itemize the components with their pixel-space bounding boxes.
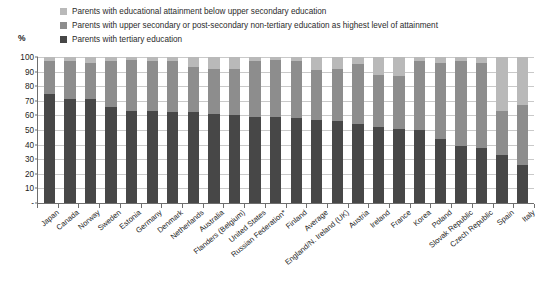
stacked-bar-chart: Parents with educational attainment belo… xyxy=(0,0,543,290)
stacked-bar[interactable] xyxy=(249,57,260,203)
x-axis-label: Spain xyxy=(495,208,516,227)
legend-label-tertiary: Parents with tertiary education xyxy=(72,34,182,45)
bar-segment-upper-secondary xyxy=(44,61,55,93)
bar-segment-upper-secondary xyxy=(208,69,219,114)
bar-segment-upper-secondary xyxy=(249,61,260,116)
bar-segment-upper-secondary xyxy=(311,70,322,120)
bar-segment-upper-secondary xyxy=(517,105,528,165)
stacked-bar[interactable] xyxy=(435,57,446,203)
bar-segment-tertiary xyxy=(476,148,487,203)
bar-segment-below-upper-secondary xyxy=(188,57,199,67)
bar-segment-upper-secondary xyxy=(105,61,116,106)
bar-segment-upper-secondary xyxy=(147,61,158,111)
stacked-bar[interactable] xyxy=(167,57,178,203)
stacked-bar[interactable] xyxy=(414,57,425,203)
bar-segment-upper-secondary xyxy=(476,63,487,148)
bar-slot xyxy=(204,57,225,203)
bar-segment-below-upper-secondary xyxy=(332,57,343,69)
x-axis-label: France xyxy=(389,208,413,230)
legend-item-below-upper-secondary: Parents with educational attainment belo… xyxy=(60,6,540,18)
legend-item-upper-secondary: Parents with upper secondary or post-sec… xyxy=(60,20,540,32)
bar-segment-upper-secondary xyxy=(167,61,178,112)
bar-segment-tertiary xyxy=(188,112,199,203)
chart-legend: Parents with educational attainment belo… xyxy=(60,6,540,48)
bar-segment-upper-secondary xyxy=(455,61,466,146)
bar-segment-upper-secondary xyxy=(188,67,199,112)
bar-slot xyxy=(492,57,513,203)
bar-slot xyxy=(224,57,245,203)
x-axis-labels: JapanCanadaNorwaySwedenEstoniaGermanyDen… xyxy=(37,208,534,288)
bar-slot xyxy=(430,57,451,203)
bar-segment-tertiary xyxy=(208,114,219,203)
bar-segment-below-upper-secondary xyxy=(517,57,528,105)
stacked-bar[interactable] xyxy=(270,57,281,203)
bar-slot xyxy=(348,57,369,203)
bar-segment-tertiary xyxy=(249,117,260,203)
bar-segment-below-upper-secondary xyxy=(229,57,240,69)
stacked-bar[interactable] xyxy=(229,57,240,203)
stacked-bar[interactable] xyxy=(147,57,158,203)
bar-slot xyxy=(60,57,81,203)
stacked-bar[interactable] xyxy=(208,57,219,203)
stacked-bar[interactable] xyxy=(373,57,384,203)
x-axis-label: Ireland xyxy=(368,208,392,230)
y-axis-unit-label: % xyxy=(18,33,26,43)
bar-slot xyxy=(162,57,183,203)
legend-swatch-tertiary xyxy=(60,36,67,43)
bar-segment-tertiary xyxy=(44,94,55,204)
bar-slot xyxy=(368,57,389,203)
bar-slot xyxy=(80,57,101,203)
bar-slot xyxy=(327,57,348,203)
stacked-bar[interactable] xyxy=(517,57,528,203)
stacked-bar[interactable] xyxy=(105,57,116,203)
stacked-bar[interactable] xyxy=(455,57,466,203)
bar-segment-tertiary xyxy=(126,111,137,203)
bar-segment-tertiary xyxy=(332,121,343,203)
stacked-bar[interactable] xyxy=(64,57,75,203)
bar-segment-tertiary xyxy=(435,139,446,203)
bar-segment-tertiary xyxy=(517,165,528,203)
bar-slot xyxy=(245,57,266,203)
bar-segment-upper-secondary xyxy=(229,69,240,116)
x-axis-label: Austria xyxy=(347,208,371,230)
bar-segment-tertiary xyxy=(373,127,384,203)
legend-swatch-upper-secondary xyxy=(60,22,67,29)
stacked-bar[interactable] xyxy=(44,57,55,203)
legend-item-tertiary: Parents with tertiary education xyxy=(60,34,540,46)
bar-segment-tertiary xyxy=(496,155,507,203)
stacked-bar[interactable] xyxy=(311,57,322,203)
bar-slot xyxy=(512,57,533,203)
plot-area: -102030405060708090100 xyxy=(37,57,534,204)
stacked-bar[interactable] xyxy=(291,57,302,203)
stacked-bar[interactable] xyxy=(496,57,507,203)
bar-slot xyxy=(286,57,307,203)
bar-segment-upper-secondary xyxy=(332,69,343,122)
bar-segment-tertiary xyxy=(64,99,75,203)
stacked-bar[interactable] xyxy=(393,57,404,203)
stacked-bar[interactable] xyxy=(126,57,137,203)
bar-segment-below-upper-secondary xyxy=(393,57,404,76)
bar-slot xyxy=(183,57,204,203)
bar-segment-upper-secondary xyxy=(373,75,384,128)
bar-slot xyxy=(121,57,142,203)
bar-segment-tertiary xyxy=(167,112,178,203)
stacked-bar[interactable] xyxy=(188,57,199,203)
stacked-bar[interactable] xyxy=(476,57,487,203)
x-axis-tickmark xyxy=(534,204,535,208)
stacked-bar[interactable] xyxy=(352,57,363,203)
bar-segment-tertiary xyxy=(414,130,425,203)
x-axis-label: Italy xyxy=(520,208,536,224)
bar-segment-upper-secondary xyxy=(126,60,137,111)
bar-segment-upper-secondary xyxy=(496,111,507,155)
bar-segment-tertiary xyxy=(311,120,322,203)
bar-segment-below-upper-secondary xyxy=(311,57,322,70)
legend-swatch-below-upper-secondary xyxy=(60,8,67,15)
bar-segment-tertiary xyxy=(229,115,240,203)
stacked-bar[interactable] xyxy=(85,57,96,203)
bar-segment-below-upper-secondary xyxy=(352,57,363,64)
bar-segment-tertiary xyxy=(105,107,116,203)
stacked-bar[interactable] xyxy=(332,57,343,203)
bar-slot xyxy=(471,57,492,203)
bar-segment-tertiary xyxy=(455,146,466,203)
bar-slot xyxy=(451,57,472,203)
